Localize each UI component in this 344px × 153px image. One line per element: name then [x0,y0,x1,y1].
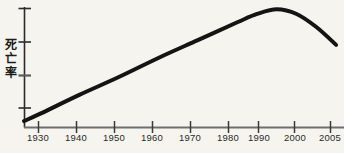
mortality-rate-curve [24,9,336,121]
x-tick-label-1950: 1950 [103,132,125,143]
x-tick-label-1930: 1930 [27,132,49,143]
x-tick-label-2000: 2000 [284,132,306,143]
x-tick-label-1980: 1980 [217,132,239,143]
x-tick-label-2005: 2005 [319,132,341,143]
mortality-rate-line-chart [0,0,344,153]
x-tick-label-1940: 1940 [65,132,87,143]
chart-container: 死 亡 率 1930 1940 1950 1960 1970 1980 1990… [0,0,344,153]
x-tick-label-1960: 1960 [141,132,163,143]
x-tick-label-1990: 1990 [248,132,270,143]
y-axis-label: 死 亡 率 [3,38,19,80]
x-tick-label-1970: 1970 [179,132,201,143]
